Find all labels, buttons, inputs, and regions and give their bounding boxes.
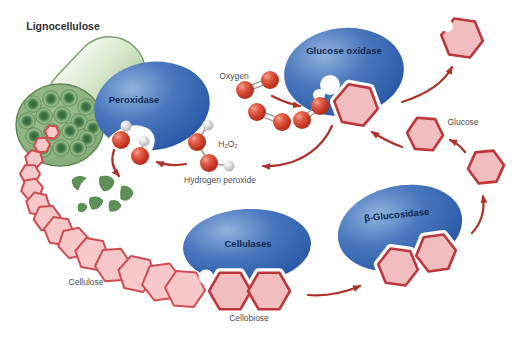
hydrogen-atom [224,161,235,172]
oxygen-atom [261,71,279,89]
cellulases-label: Cellulases [225,238,272,249]
fiber-cell [36,108,53,125]
fiber-cell [62,123,79,140]
oxygen-atom [112,131,130,149]
lignin-fragments [72,176,133,211]
glucose-label: Glucose [447,117,478,127]
hydrogen-atom [203,120,214,131]
oxygen-atom [311,97,329,115]
fiber-cell [61,90,78,107]
arrow-glucose-up [450,140,465,152]
lignin-fragment [100,176,115,191]
arrow-oxidase-product-out [402,67,452,102]
arrow-oxidase-to-peroxide [263,126,332,166]
oxygen-atom [236,81,254,99]
arrow-peroxide-to-peroxidase [157,162,186,165]
cellulose-chain-hexagon [45,125,59,138]
glucose-oxidase-label: Glucose oxidase [306,45,382,56]
lignin-fragment [121,186,133,200]
lignin-fragment [72,176,86,190]
oxygen-atom [248,103,266,121]
glucose-hexagon [407,118,443,150]
diagram-canvas: Lignocellulose Peroxidase Glucose oxidas… [0,0,520,339]
oxygen-label: Oxygen [219,71,249,81]
fiber-cell [19,113,36,130]
cellobiose-label: Cellobiose [229,313,269,323]
h2o2-label: H₂O₂ [218,139,237,149]
hydrogen-atom [139,136,150,147]
oxygen-atom [188,133,206,151]
lignin-fragment [109,201,121,212]
cellobiose-hexagon [248,273,290,309]
oxidized-glucose-bite [441,20,453,32]
cellulose-chain-hexagon [34,138,50,153]
oxygen-atom [200,154,218,172]
fiber-cell [70,140,87,157]
oxygen-atom [293,111,311,129]
hydrogen-atom [121,121,132,132]
oxygen-atom [273,113,291,131]
cellulases-notch [199,270,214,285]
lignin-fragment [78,203,87,211]
fiber-cell [53,140,70,157]
fiber-cell [78,99,95,116]
arrow-glucose-to-oxidase [372,132,402,147]
cellulose-label: Cellulose [69,277,104,287]
cellobiose-hexagon [209,273,251,309]
glucose-hexagon [468,151,504,184]
oxygen-atom [131,147,149,165]
fiber-cell [54,107,71,124]
hydrogen-peroxide-label: Hydrogen peroxide [184,175,256,185]
diagram-stage: Lignocellulose Peroxidase Glucose oxidas… [0,0,520,339]
arrow-glucosidase-to-glucose [472,196,484,233]
lignin-fragment [89,197,103,209]
fiber-cell [43,91,60,108]
peroxidase-label: Peroxidase [109,94,160,105]
lignocellulose-label: Lignocellulose [26,20,100,32]
arrow-cellobiose-to-glucosidase [308,286,360,295]
